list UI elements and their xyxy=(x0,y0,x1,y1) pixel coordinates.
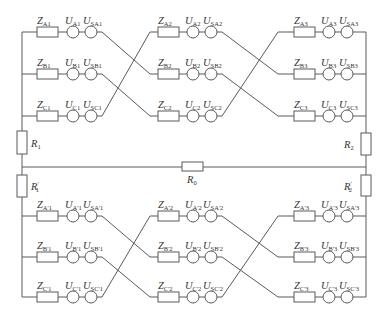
source-u-A3 xyxy=(323,26,335,38)
label-u-B2: UB2 xyxy=(185,57,200,69)
impedance-lower-A'1 xyxy=(37,211,58,221)
upper-transpose-a-b-1 xyxy=(222,32,278,74)
label-r0: R0 xyxy=(186,174,197,186)
source-us-SA1 xyxy=(85,26,97,38)
label-us-SA'2: USA'2 xyxy=(203,199,223,211)
source-u-C3 xyxy=(323,110,335,122)
label-us-SB3: USB3 xyxy=(339,57,358,69)
upper-transpose-c-a-1 xyxy=(222,32,278,116)
label-r2: R2 xyxy=(343,139,354,151)
resistor-r2-prime xyxy=(361,175,371,196)
label-z-A3: ZA3 xyxy=(294,15,308,27)
source-u-A'3 xyxy=(323,210,335,222)
lower-transpose-a-b-1 xyxy=(222,216,278,257)
source-us-SB3 xyxy=(341,68,353,80)
label-z-C'2: ZC'2 xyxy=(158,280,173,292)
label-us-SC'3: USC'3 xyxy=(339,280,359,292)
source-u-C2 xyxy=(187,110,199,122)
source-us-SC'3 xyxy=(341,291,353,303)
impedance-lower-C'1 xyxy=(37,292,58,302)
label-u-B'1: UB'1 xyxy=(65,240,81,252)
label-z-A2: ZA2 xyxy=(158,15,172,27)
label-u-C3: UC3 xyxy=(321,99,336,111)
source-us-SC1 xyxy=(85,110,97,122)
label-u-A'2: UA'2 xyxy=(185,199,202,211)
impedance-upper-A1 xyxy=(37,27,58,37)
source-us-SB'3 xyxy=(341,251,353,263)
label-us-SB'3: USB'3 xyxy=(339,240,359,252)
phase-rows: ZA1UA1USA1ZB1UB1USB1ZC1UC1USC1ZA2UA2USA2… xyxy=(22,15,366,303)
label-z-B'3: ZB'3 xyxy=(294,240,309,252)
label-us-SA1: USA1 xyxy=(83,15,102,27)
label-u-C'2: UC'2 xyxy=(185,280,201,292)
resistor-r1 xyxy=(17,131,27,154)
source-us-SB'1 xyxy=(85,251,97,263)
label-u-C2: UC2 xyxy=(185,99,200,111)
source-us-SB1 xyxy=(85,68,97,80)
label-u-A3: UA3 xyxy=(321,15,337,27)
source-u-A'2 xyxy=(187,210,199,222)
source-u-B'2 xyxy=(187,251,199,263)
impedance-lower-B'1 xyxy=(37,252,58,262)
label-us-SB2: USB2 xyxy=(203,57,222,69)
label-us-SC'2: USC'2 xyxy=(203,280,223,292)
label-r1-prime: R′1 xyxy=(30,180,39,193)
lower-transpose-a-b-0 xyxy=(102,216,150,257)
label-u-A'3: UA'3 xyxy=(321,199,338,211)
impedance-upper-B1 xyxy=(37,69,58,79)
lower-transpose-b-c-1 xyxy=(222,257,278,297)
label-z-A'2: ZA'2 xyxy=(158,199,173,211)
impedance-lower-A'3 xyxy=(294,211,315,221)
label-z-A1: ZA1 xyxy=(37,15,51,27)
label-z-C2: ZC2 xyxy=(158,99,171,111)
lower-transpose-c-a-1 xyxy=(222,216,278,297)
impedance-lower-C'3 xyxy=(294,292,315,302)
impedance-upper-C2 xyxy=(158,111,179,121)
label-u-A2: UA2 xyxy=(185,15,201,27)
label-u-C'3: UC'3 xyxy=(321,280,337,292)
label-u-B'3: UB'3 xyxy=(321,240,337,252)
source-us-SC'2 xyxy=(205,291,217,303)
label-z-C1: ZC1 xyxy=(37,99,50,111)
resistor-r0 xyxy=(182,162,203,171)
source-u-B'3 xyxy=(323,251,335,263)
source-us-SA'2 xyxy=(205,210,217,222)
resistor-r1-prime xyxy=(17,175,27,197)
circuit-svg: ZA1UA1USA1ZB1UB1USB1ZC1UC1USC1ZA2UA2USA2… xyxy=(0,0,383,321)
impedance-upper-B2 xyxy=(158,69,179,79)
label-z-A'1: ZA'1 xyxy=(37,199,52,211)
impedance-upper-C3 xyxy=(294,111,315,121)
label-us-SA'3: USA'3 xyxy=(339,199,359,211)
label-us-SC'1: USC'1 xyxy=(83,280,103,292)
source-u-C'2 xyxy=(187,291,199,303)
source-us-SC3 xyxy=(341,110,353,122)
label-us-SC2: USC2 xyxy=(203,99,222,111)
label-z-C3: ZC3 xyxy=(294,99,307,111)
source-u-A2 xyxy=(187,26,199,38)
upper-transpose-b-c-1 xyxy=(222,74,278,116)
label-us-SA2: USA2 xyxy=(203,15,222,27)
label-z-B2: ZB2 xyxy=(158,57,171,69)
label-us-SA3: USA3 xyxy=(339,15,358,27)
label-us-SB'2: USB'2 xyxy=(203,240,223,252)
source-us-SA'3 xyxy=(341,210,353,222)
label-u-A1: UA1 xyxy=(65,15,81,27)
label-z-B3: ZB3 xyxy=(294,57,307,69)
label-z-C'3: ZC'3 xyxy=(294,280,309,292)
source-u-B2 xyxy=(187,68,199,80)
label-z-B1: ZB1 xyxy=(37,57,50,69)
circuit-diagram: ZA1UA1USA1ZB1UB1USB1ZC1UC1USC1ZA2UA2USA2… xyxy=(0,0,383,321)
source-us-SA2 xyxy=(205,26,217,38)
label-us-SC1: USC1 xyxy=(83,99,102,111)
label-r2-prime: R′2 xyxy=(343,180,352,193)
source-us-SA3 xyxy=(341,26,353,38)
source-us-SC'1 xyxy=(85,291,97,303)
label-u-C1: UC1 xyxy=(65,99,80,111)
impedance-lower-C'2 xyxy=(158,292,179,302)
source-u-C'1 xyxy=(67,291,79,303)
source-us-SB2 xyxy=(205,68,217,80)
source-u-C'3 xyxy=(323,291,335,303)
label-u-B'2: UB'2 xyxy=(185,240,201,252)
label-z-C'1: ZC'1 xyxy=(37,280,52,292)
label-us-SA'1: USA'1 xyxy=(83,199,103,211)
